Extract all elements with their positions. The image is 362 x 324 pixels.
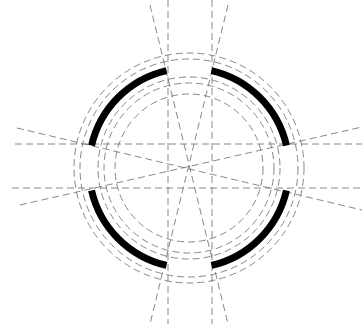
construction-line-diagonal-shallow-b <box>20 127 362 205</box>
construction-circle <box>74 53 304 283</box>
construction-circle <box>98 77 280 259</box>
construction-circles <box>74 53 304 283</box>
construction-circle <box>104 83 274 253</box>
thick-arcs <box>92 71 287 266</box>
drawing-canvas <box>0 0 362 324</box>
construction-circle <box>80 59 298 277</box>
construction-line-diagonal-shallow-a <box>17 128 362 210</box>
technical-drawing <box>0 0 362 324</box>
construction-circle <box>115 94 263 242</box>
construction-lines <box>12 0 362 324</box>
